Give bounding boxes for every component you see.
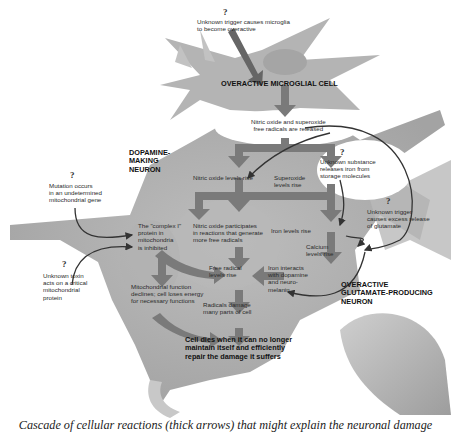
- text-line: Free radical: [209, 264, 242, 271]
- text-line: Radicals damage: [203, 301, 252, 308]
- step-radicals-released: Nitric oxide and superoxide free radical…: [251, 118, 326, 132]
- text-line: for necessary functions: [131, 297, 203, 304]
- text-line: Unknown toxin: [43, 272, 87, 279]
- text-line: acts on a critical: [43, 279, 87, 286]
- question-mark-icon: ?: [340, 147, 345, 157]
- text-line: Iron interacts: [268, 264, 308, 271]
- text-line: to become overactive: [197, 25, 290, 32]
- step-iron-interacts: Iron interacts with dopamine and neuro- …: [268, 264, 308, 293]
- glutamate-neuron-label: OVERACTIVE GLUTAMATE-PRODUCING NEURON: [341, 281, 433, 306]
- step-nitric-oxide-participates: Nitric oxide participates in reactions t…: [193, 222, 263, 244]
- text-line: levels rise: [274, 181, 305, 188]
- text-line: Unknown trigger causes microglia: [197, 18, 290, 25]
- text-line: is inhibited: [138, 244, 181, 251]
- text-line: Unknown substance: [320, 158, 376, 165]
- text-line: levels rise: [209, 271, 242, 278]
- text-line: storage molecules: [320, 172, 376, 179]
- dopamine-neuron-label: DOPAMINE- MAKING NEURON: [129, 149, 170, 174]
- question-mark-icon: ?: [223, 7, 228, 17]
- text-line: Mitochondrial function: [131, 283, 203, 290]
- text-line: levels rise: [306, 250, 334, 257]
- text-line: protein in: [138, 229, 181, 236]
- microglial-cell-shape: [160, 18, 380, 120]
- trigger-glutamate-text: Unknown trigger causes excess release of…: [367, 208, 430, 230]
- step-cell-dies: Cell dies when it can no longer maintain…: [185, 336, 292, 361]
- text-line: Superoxide: [274, 174, 305, 181]
- glutamate-label-line: NEURON: [341, 298, 433, 306]
- text-line: and neuro-: [268, 278, 308, 285]
- trigger-microglia-text: Unknown trigger causes microglia to beco…: [197, 18, 290, 32]
- text-line: Calcium: [306, 243, 334, 250]
- text-line: protein: [43, 294, 87, 301]
- text-line: in reactions that generate: [193, 229, 263, 236]
- text-line: releases iron from: [320, 165, 376, 172]
- text-line: causes excess release: [367, 215, 430, 222]
- text-line: Mutation occurs: [49, 182, 102, 189]
- text-line: free radicals are released: [251, 125, 326, 132]
- text-line: declines; cell loses energy: [131, 290, 203, 297]
- step-nitric-oxide-rise: Nitric oxide levels rise: [193, 174, 253, 181]
- trigger-iron-substance-text: Unknown substance releases iron from sto…: [320, 158, 376, 180]
- text-line: Nitric oxide levels rise: [193, 174, 253, 181]
- step-mitochondrial-decline: Mitochondrial function declines; cell lo…: [131, 283, 203, 305]
- step-superoxide-rise: Superoxide levels rise: [274, 174, 305, 188]
- text-line: of glutamate: [367, 222, 430, 229]
- text-line: mitochondrial: [43, 286, 87, 293]
- text-line: in an undetermined: [49, 189, 102, 196]
- text-line: Unknown trigger: [367, 208, 430, 215]
- text-line: Nitric oxide and superoxide: [251, 118, 326, 125]
- question-mark-icon: ?: [62, 259, 67, 269]
- step-iron-rise: Iron levels rise: [271, 227, 311, 234]
- question-mark-icon: ?: [70, 170, 75, 180]
- text-line: melanin: [268, 286, 308, 293]
- question-mark-icon: ?: [386, 196, 391, 206]
- text-line: Nitric oxide participates: [193, 222, 263, 229]
- text-line: The "complex I": [138, 222, 181, 229]
- text-line: many parts of cell: [203, 308, 252, 315]
- text-line: with dopamine: [268, 271, 308, 278]
- text-line: mitochondrial gene: [49, 196, 102, 203]
- step-complex-i-inhibited: The "complex I" protein in mitochondria …: [138, 222, 181, 251]
- step-free-radical-rise: Free radical levels rise: [209, 264, 242, 278]
- text-line: mitochondria: [138, 236, 181, 243]
- microglial-cell-label: OVERACTIVE MICROGLIAL CELL: [221, 80, 338, 88]
- trigger-toxin-text: Unknown toxin acts on a critical mitocho…: [43, 272, 87, 301]
- step-radicals-damage: Radicals damage many parts of cell: [203, 301, 252, 315]
- text-line: Iron levels rise: [271, 227, 311, 234]
- figure-caption: Cascade of cellular reactions (thick arr…: [0, 418, 451, 433]
- text-line: more free radicals: [193, 236, 263, 243]
- trigger-mutation-text: Mutation occurs in an undetermined mitoc…: [49, 182, 102, 204]
- dopamine-label-line: NEURON: [129, 166, 170, 174]
- step-calcium-rise: Calcium levels rise: [306, 243, 334, 257]
- text-line: repair the damage it suffers: [185, 353, 292, 361]
